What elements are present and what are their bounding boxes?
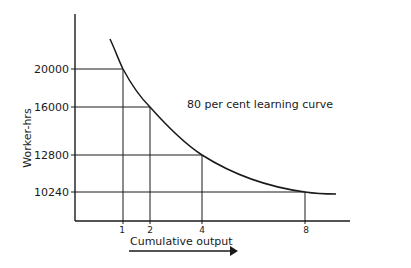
- y-tick-label: 10240: [34, 186, 69, 199]
- y-tick-label: 20000: [34, 63, 69, 76]
- curve-annotation: 80 per cent learning curve: [187, 98, 333, 111]
- learning-curve-line: [110, 39, 336, 194]
- x-axis-label: Cumulative output: [130, 235, 233, 248]
- horizontal-reference-lines: [71, 69, 305, 192]
- y-tick-label: 16000: [34, 101, 69, 114]
- x-tick-label: 1: [119, 225, 125, 235]
- vertical-reference-lines: [123, 69, 305, 224]
- learning-curve-chart: 20000 16000 12800 10240 1 2 4 8 Worker-h…: [0, 0, 411, 268]
- x-tick-label: 4: [199, 225, 205, 235]
- x-tick-label: 2: [147, 225, 153, 235]
- y-axis-label: Worker-hrs: [21, 108, 34, 168]
- x-tick-label: 8: [303, 225, 309, 235]
- y-tick-label: 12800: [34, 149, 69, 162]
